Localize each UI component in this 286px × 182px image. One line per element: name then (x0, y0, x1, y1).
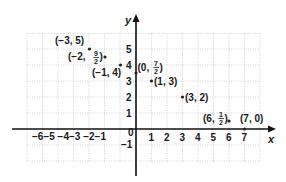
point-neg3-5 (88, 47, 91, 50)
svg-text:1: 1 (219, 111, 223, 118)
point-label-3-2: (3, 2) (185, 92, 208, 103)
svg-text:): ) (100, 51, 103, 62)
svg-text:): ) (160, 62, 163, 73)
point-1-3 (150, 79, 153, 82)
x-tick-2: 2 (164, 132, 170, 143)
svg-text:(0,: (0, (138, 62, 150, 73)
point-neg2-4.5 (103, 55, 106, 58)
point-label-0-7-2: (0, 7 2 ) (138, 60, 163, 75)
svg-text:7: 7 (154, 60, 158, 67)
point-3-2 (181, 95, 184, 98)
x-tick-1: 1 (149, 132, 155, 143)
y-axis-arrow-icon (133, 14, 140, 22)
y-tick-4: 4 (126, 60, 132, 71)
x-tick-4: 4 (195, 132, 201, 143)
x-tick-3: 3 (180, 132, 186, 143)
point-label-7-0: (7, 0) (240, 113, 263, 124)
axes (12, 20, 270, 176)
y-axis-label: y (124, 14, 132, 26)
svg-text:): ) (225, 113, 228, 124)
x-tick-5: 5 (211, 132, 217, 143)
x-tick-7: 7 (242, 132, 248, 143)
svg-text:9: 9 (94, 50, 98, 57)
y-tick-2: 2 (126, 92, 132, 103)
point-6-0.5 (227, 119, 230, 122)
y-tick-5: 5 (126, 44, 132, 55)
point-7-0 (243, 127, 246, 130)
x-axis-arrow-icon (268, 126, 276, 133)
point-label-neg3-5: (−3, 5) (55, 35, 84, 46)
svg-text:2: 2 (94, 58, 98, 65)
svg-text:(6,: (6, (203, 113, 215, 124)
point-label-1-3: (1, 3) (154, 76, 177, 87)
svg-text:2: 2 (154, 68, 158, 75)
svg-text:2: 2 (219, 119, 223, 126)
svg-text:(−2,: (−2, (68, 51, 86, 62)
y-tick-3: 3 (126, 76, 132, 87)
x-tick-labels-negative: −6−5 −4−3 −2−1 (32, 131, 106, 142)
y-tick-neg1: −1 (121, 139, 133, 150)
origin-label: 0 (128, 127, 134, 138)
point-label-neg1-4: (−1, 4) (92, 67, 121, 78)
point-label-6-1-2: (6, 1 2 ) (203, 111, 228, 126)
x-axis-label: x (267, 133, 275, 145)
scatter-chart: x y −6−5 −4−3 −2−1 0 −1 1 2 3 4 5 6 7 1 … (0, 0, 286, 182)
y-tick-1: 1 (126, 108, 132, 119)
x-tick-6: 6 (226, 132, 232, 143)
